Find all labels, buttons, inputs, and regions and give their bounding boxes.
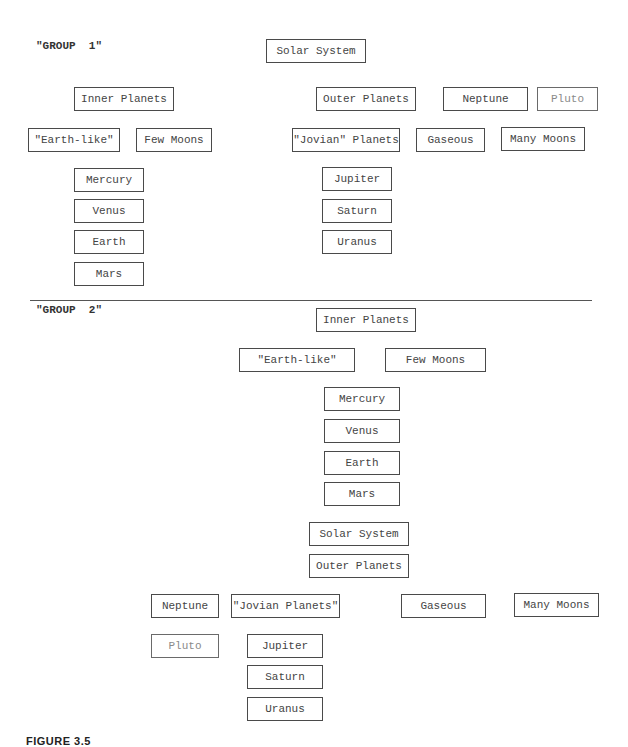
figure-caption: FIGURE 3.5 — [26, 735, 91, 747]
g1-jovian-planets-box: "Jovian" Planets — [292, 128, 400, 152]
g2-mars-box: Mars — [324, 482, 400, 506]
g1-pluto-box: Pluto — [537, 87, 598, 111]
g2-solar-system-box: Solar System — [309, 522, 409, 546]
g1-solar-system-box: Solar System — [266, 39, 366, 63]
g1-earth-box: Earth — [74, 230, 144, 254]
g1-neptune-box: Neptune — [443, 87, 528, 111]
group-1-label: "GROUP 1" — [36, 40, 102, 52]
g1-jupiter-box: Jupiter — [322, 167, 392, 191]
g2-few-moons-box: Few Moons — [385, 348, 486, 372]
g2-saturn-box: Saturn — [247, 665, 323, 689]
g1-mercury-box: Mercury — [74, 168, 144, 192]
g2-neptune-box: Neptune — [151, 594, 219, 618]
g2-venus-box: Venus — [324, 419, 400, 443]
group-divider — [30, 300, 592, 301]
g1-venus-box: Venus — [74, 199, 144, 223]
g2-gaseous-box: Gaseous — [401, 594, 486, 618]
g2-pluto-box: Pluto — [151, 634, 219, 658]
g1-mars-box: Mars — [74, 262, 144, 286]
g1-earth-like-box: "Earth-like" — [28, 128, 120, 152]
g2-inner-planets-box: Inner Planets — [316, 308, 416, 332]
g2-jovian-planets-box: "Jovian Planets" — [231, 594, 340, 618]
g1-uranus-box: Uranus — [322, 230, 392, 254]
g2-uranus-box: Uranus — [247, 697, 323, 721]
g1-many-moons-box: Many Moons — [501, 127, 585, 151]
g2-many-moons-box: Many Moons — [514, 593, 599, 617]
g2-jupiter-box: Jupiter — [247, 634, 323, 658]
g2-earth-like-box: "Earth-like" — [239, 348, 355, 372]
g1-few-moons-box: Few Moons — [136, 128, 212, 152]
g1-saturn-box: Saturn — [322, 199, 392, 223]
g2-mercury-box: Mercury — [324, 387, 400, 411]
g1-gaseous-box: Gaseous — [416, 128, 485, 152]
g2-outer-planets-box: Outer Planets — [309, 554, 409, 578]
g1-outer-planets-box: Outer Planets — [316, 87, 416, 111]
g1-inner-planets-box: Inner Planets — [74, 87, 174, 111]
group-2-label: "GROUP 2" — [36, 304, 102, 316]
g2-earth-box: Earth — [324, 451, 400, 475]
